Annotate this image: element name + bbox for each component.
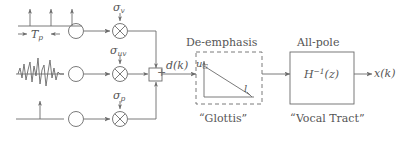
allpole-transfer-function: H−1(z) — [304, 68, 339, 80]
impulse-p-generator-node — [69, 112, 84, 127]
sigma-p-label: σp — [113, 90, 125, 102]
single-impulse-waveform — [16, 101, 64, 119]
glottis-caption: “Glottis” — [199, 113, 247, 124]
deemphasis-title: De-emphasis — [186, 37, 257, 48]
sigma-v-label: σv — [113, 2, 125, 14]
noise-generator-node — [69, 67, 84, 82]
vocal-tract-caption: “Vocal Tract” — [290, 113, 365, 124]
glottal-y-axis-label: uG — [196, 59, 208, 70]
sigma-uv-label: σuv — [110, 45, 127, 57]
period-label: Tp — [31, 29, 43, 41]
output-label: x(k) — [374, 68, 395, 79]
noise-gain-multiplier — [113, 67, 128, 82]
figure-canvas: Tp σv σuv σp d(k) + De-emphasis uG l “Gl… — [0, 0, 398, 145]
allpole-title: All-pole — [297, 37, 339, 48]
impulse-gain-multiplier — [113, 24, 128, 39]
impulse-train-waveform — [18, 9, 82, 26]
summer-output-label: d(k) — [166, 60, 188, 71]
summer-plus-sign: + — [157, 67, 166, 78]
glottal-x-axis-label: l — [244, 84, 247, 94]
impulse-p-gain-multiplier — [113, 112, 128, 127]
white-noise-waveform — [16, 58, 64, 86]
